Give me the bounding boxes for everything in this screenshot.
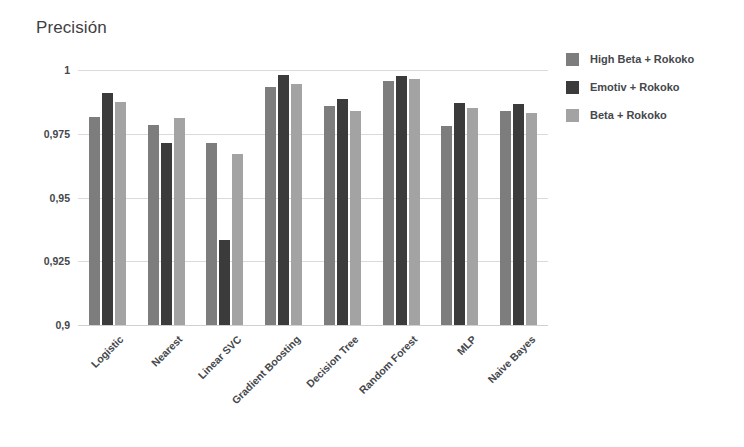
bar[interactable] [265, 87, 276, 325]
legend-swatch-icon [566, 81, 579, 94]
y-axis-tick-label: 0,975 [44, 128, 70, 140]
y-axis-tick-label: 0,95 [50, 192, 70, 204]
bar[interactable] [454, 103, 465, 325]
bar[interactable] [409, 79, 420, 325]
y-axis-tick-label: 1 [64, 64, 70, 76]
x-axis-tick-label: Logistic [89, 333, 126, 370]
bar[interactable] [350, 111, 361, 325]
legend-item[interactable]: Emotiv + Rokoko [566, 80, 736, 94]
x-axis: LogisticNearestLinear SVCGradient Boosti… [78, 325, 548, 435]
x-axis-tick-label: Linear SVC [195, 333, 243, 381]
legend-swatch-icon [566, 53, 579, 66]
bar[interactable] [89, 117, 100, 325]
bar-group [489, 70, 548, 325]
x-axis-tick-label: Decision Tree [304, 333, 361, 390]
bar[interactable] [206, 143, 217, 325]
bar-group [78, 70, 137, 325]
x-axis-tick-label: Random Forest [357, 333, 420, 396]
bar[interactable] [291, 84, 302, 325]
precision-bar-chart: Precisión 10,9750,950,9250,9 LogisticNea… [0, 0, 744, 447]
bar-group [313, 70, 372, 325]
bar[interactable] [148, 125, 159, 325]
bar[interactable] [232, 154, 243, 325]
legend-item-label: Beta + Rokoko [590, 109, 667, 122]
bar[interactable] [526, 113, 537, 325]
x-axis-tick-label: Nearest [149, 333, 185, 369]
bar[interactable] [337, 99, 348, 325]
bar[interactable] [278, 75, 289, 325]
bar[interactable] [324, 106, 335, 325]
bar-group [431, 70, 490, 325]
legend-item[interactable]: High Beta + Rokoko [566, 52, 736, 66]
bar[interactable] [441, 126, 452, 325]
y-axis: 10,9750,950,9250,9 [18, 70, 70, 325]
y-axis-tick-label: 0,9 [55, 319, 70, 331]
bar[interactable] [115, 102, 126, 325]
bar[interactable] [500, 111, 511, 325]
legend-item[interactable]: Beta + Rokoko [566, 108, 736, 122]
bar-group [137, 70, 196, 325]
bar-group [196, 70, 255, 325]
bar[interactable] [174, 118, 185, 325]
chart-title: Precisión [36, 18, 107, 38]
bar-group [254, 70, 313, 325]
bar[interactable] [396, 76, 407, 325]
bar[interactable] [383, 81, 394, 325]
plot-area [78, 70, 548, 325]
legend-item-label: High Beta + Rokoko [590, 53, 694, 66]
x-axis-tick-label: MLP [454, 333, 478, 357]
bar[interactable] [513, 104, 524, 325]
bar[interactable] [219, 240, 230, 325]
bar[interactable] [467, 108, 478, 325]
y-axis-tick-label: 0,925 [44, 255, 70, 267]
chart-legend: High Beta + RokokoEmotiv + RokokoBeta + … [566, 52, 736, 136]
x-axis-tick-label: Naive Bayes [485, 333, 537, 385]
legend-swatch-icon [566, 109, 579, 122]
bar[interactable] [161, 143, 172, 325]
bar-group [372, 70, 431, 325]
bar[interactable] [102, 93, 113, 325]
legend-item-label: Emotiv + Rokoko [590, 81, 680, 94]
